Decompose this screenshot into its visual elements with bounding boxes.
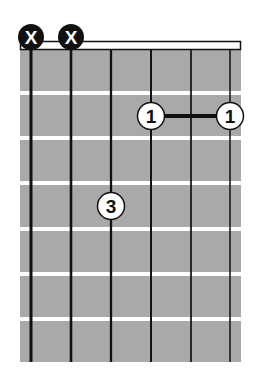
chord-diagram: X X 1 1 3 <box>0 0 254 388</box>
mute-marker-2: X <box>58 24 84 50</box>
finger-marker-string3: 3 <box>98 193 125 220</box>
finger-number: 1 <box>146 106 157 127</box>
fret-line <box>20 136 241 140</box>
finger-marker-string6: 1 <box>217 103 244 130</box>
nut <box>21 42 241 50</box>
fret-line <box>20 272 241 276</box>
mute-marker-1: X <box>18 24 44 50</box>
mute-symbol: X <box>25 27 38 48</box>
finger-number: 1 <box>225 106 236 127</box>
fretboard <box>20 49 241 362</box>
finger-number: 3 <box>106 196 117 217</box>
fret-line <box>20 91 241 95</box>
finger-marker-string4: 1 <box>138 103 165 130</box>
mute-symbol: X <box>65 27 78 48</box>
fret-line <box>20 227 241 231</box>
fret-line <box>20 317 241 321</box>
fret-line <box>20 181 241 185</box>
